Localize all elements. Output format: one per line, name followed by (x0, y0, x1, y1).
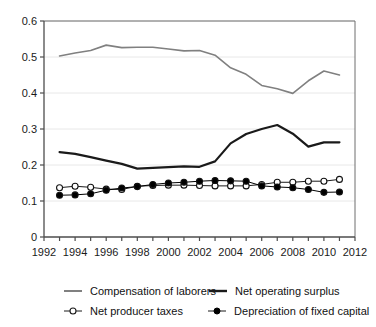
x-axis-tick-label: 2006 (249, 246, 273, 258)
black-line-key-icon (208, 285, 230, 297)
legend-item-compensation-of-laborers: Compensation of laborers (63, 285, 208, 297)
data-point-marker (228, 178, 234, 184)
y-axis-tick-label: 0.3 (22, 123, 37, 135)
data-point-marker (243, 178, 249, 184)
legend-label: Compensation of laborers (90, 285, 216, 297)
data-point-marker (212, 177, 218, 183)
data-point-marker (72, 192, 78, 198)
data-point-marker (72, 183, 78, 189)
data-point-marker (134, 184, 140, 190)
x-axis-tick-label: 1994 (63, 246, 87, 258)
data-point-marker (305, 178, 311, 184)
data-point-marker (321, 189, 327, 195)
open-circle-line-key-icon (63, 305, 85, 317)
y-axis-tick-label: 0.4 (22, 87, 37, 99)
data-point-marker (305, 186, 311, 192)
y-axis-tick-label: 0.6 (22, 15, 37, 27)
x-axis-tick-label: 2000 (156, 246, 180, 258)
line-chart-figure: 00.10.20.30.40.50.6199219941996199820002… (0, 0, 376, 327)
legend-row-2: Net producer taxes Depreciation of fixed… (0, 301, 376, 321)
legend-item-net-producer-taxes: Net producer taxes (63, 305, 207, 317)
data-point-marker (165, 180, 171, 186)
x-axis-tick-label: 1992 (32, 246, 56, 258)
data-point-marker (336, 176, 342, 182)
series-line-net-operating-surplus (60, 125, 340, 169)
legend-label: Net producer taxes (90, 305, 183, 317)
y-axis-tick-label: 0.5 (22, 51, 37, 63)
y-axis-tick-label: 0.1 (22, 195, 37, 207)
data-point-marker (259, 183, 265, 189)
data-point-marker (88, 184, 94, 190)
data-point-marker (57, 192, 63, 198)
y-axis-tick-label: 0.2 (22, 159, 37, 171)
x-axis-tick-label: 2008 (281, 246, 305, 258)
legend-item-depreciation-of-fixed-capital: Depreciation of fixed capital (207, 305, 376, 317)
data-point-marker (197, 178, 203, 184)
chart-canvas: 00.10.20.30.40.50.6199219941996199820002… (0, 0, 376, 327)
x-axis-tick-label: 2012 (343, 246, 367, 258)
data-point-marker (88, 191, 94, 197)
x-axis-tick-label: 2002 (187, 246, 211, 258)
filled-circle-line-key-icon (207, 305, 229, 317)
legend-row-1: Compensation of laborers Net operating s… (0, 281, 376, 301)
data-point-marker (57, 185, 63, 191)
chart-legend: Compensation of laborers Net operating s… (0, 281, 376, 321)
data-point-marker (290, 185, 296, 191)
data-point-marker (274, 184, 280, 190)
x-axis-tick-label: 1996 (94, 246, 118, 258)
legend-item-net-operating-surplus: Net operating surplus (208, 285, 376, 297)
x-axis-tick-label: 1998 (125, 246, 149, 258)
legend-label: Depreciation of fixed capital (234, 305, 369, 317)
data-point-marker (181, 179, 187, 185)
data-point-marker (336, 189, 342, 195)
y-axis-tick-label: 0 (31, 231, 37, 243)
series-line-compensation-of-laborers (60, 45, 340, 93)
data-point-marker (119, 185, 125, 191)
data-point-marker (150, 181, 156, 187)
data-point-marker (103, 187, 109, 193)
x-axis-tick-label: 2010 (312, 246, 336, 258)
data-point-marker (321, 178, 327, 184)
x-axis-tick-label: 2004 (218, 246, 242, 258)
legend-label: Net operating surplus (235, 285, 340, 297)
gray-line-key-icon (63, 285, 85, 297)
